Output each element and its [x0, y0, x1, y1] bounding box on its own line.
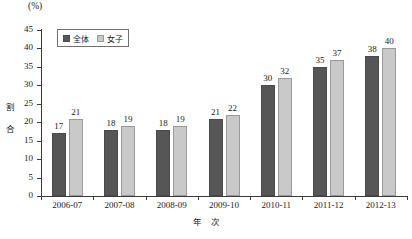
y-tick-mark	[37, 104, 41, 105]
x-tick-label: 2007-08	[104, 200, 134, 210]
legend-item-female: 女子	[97, 33, 123, 44]
bar-value-label: 38	[368, 44, 377, 54]
bar-group: 1721	[52, 30, 83, 196]
bar-group: 3537	[313, 30, 344, 196]
bar-whole: 18	[156, 130, 170, 196]
x-axis-title-char-2: 次	[211, 215, 220, 227]
x-tick-label: 2006-07	[52, 200, 82, 210]
bar-whole: 18	[104, 130, 118, 196]
y-tick-label: 10	[9, 153, 33, 163]
legend: 全体 女子	[57, 29, 129, 47]
bar-value-label: 21	[211, 107, 220, 117]
legend-label-whole: 全体	[73, 33, 89, 44]
bar-value-label: 18	[159, 118, 168, 128]
y-tick-label: 20	[9, 116, 33, 126]
bar-whole: 21	[209, 119, 223, 196]
y-tick-mark	[37, 159, 41, 160]
x-tick-label: 2010-11	[261, 200, 291, 210]
x-tick-label: 2012-13	[366, 200, 396, 210]
x-axis-line	[41, 196, 407, 197]
legend-swatch-whole-icon	[63, 35, 70, 42]
bar-value-label: 21	[71, 107, 80, 117]
plot-area: 051015202530354045 172118191819212230323…	[41, 30, 407, 196]
bar-whole: 17	[52, 133, 66, 196]
bar-value-label: 32	[280, 66, 289, 76]
x-tick-mark	[41, 196, 42, 200]
x-tick-label: 2011-12	[314, 200, 344, 210]
y-tick-label: 0	[9, 190, 33, 200]
legend-swatch-female-icon	[97, 35, 104, 42]
y-tick-label: 35	[9, 61, 33, 71]
bar-group: 2122	[209, 30, 240, 196]
bar-female: 40	[382, 48, 396, 196]
bar-value-label: 18	[106, 118, 115, 128]
bar-whole: 38	[365, 56, 379, 196]
bar-value-label: 19	[176, 114, 185, 124]
y-tick-mark	[37, 30, 41, 31]
bar-female: 32	[278, 78, 292, 196]
x-tick-label: 2008-09	[157, 200, 187, 210]
y-unit-label: (%)	[28, 1, 42, 11]
x-tick-label: 2009-10	[209, 200, 239, 210]
x-tick-mark	[93, 196, 94, 200]
x-tick-mark	[198, 196, 199, 200]
y-tick-label: 25	[9, 98, 33, 108]
y-tick-mark	[37, 178, 41, 179]
x-axis-title: 年次	[0, 215, 412, 227]
bar-value-label: 37	[333, 48, 342, 58]
legend-label-female: 女子	[107, 33, 123, 44]
x-tick-mark	[302, 196, 303, 200]
bar-value-label: 30	[263, 73, 272, 83]
y-tick-mark	[37, 85, 41, 86]
bar-group: 3840	[365, 30, 396, 196]
y-tick-label: 40	[9, 42, 33, 52]
bar-value-label: 22	[228, 103, 237, 113]
y-tick-label: 45	[9, 24, 33, 34]
y-tick-mark	[37, 122, 41, 123]
bar-value-label: 19	[123, 114, 132, 124]
bar-female: 19	[173, 126, 187, 196]
bar-whole: 30	[261, 85, 275, 196]
bar-value-label: 35	[316, 55, 325, 65]
y-tick-label: 30	[9, 79, 33, 89]
bar-value-label: 17	[54, 121, 63, 131]
y-tick-label: 5	[9, 172, 33, 182]
x-tick-mark	[355, 196, 356, 200]
bar-whole: 35	[313, 67, 327, 196]
y-tick-mark	[37, 141, 41, 142]
x-tick-mark	[250, 196, 251, 200]
bar-group: 1819	[104, 30, 135, 196]
bar-female: 19	[121, 126, 135, 196]
x-tick-mark	[407, 196, 408, 200]
bar-value-label: 40	[385, 36, 394, 46]
y-tick-mark	[37, 67, 41, 68]
bar-group: 3032	[261, 30, 292, 196]
y-tick-mark	[37, 48, 41, 49]
bar-chart: (%) 割 合 051015202530354045 1721181918192…	[0, 0, 412, 239]
x-tick-mark	[146, 196, 147, 200]
y-tick-label: 15	[9, 135, 33, 145]
bar-female: 37	[330, 60, 344, 196]
bar-group: 1819	[156, 30, 187, 196]
bar-female: 22	[226, 115, 240, 196]
bar-female: 21	[69, 119, 83, 196]
x-axis-title-char-1: 年	[193, 215, 202, 227]
legend-item-whole: 全体	[63, 33, 89, 44]
